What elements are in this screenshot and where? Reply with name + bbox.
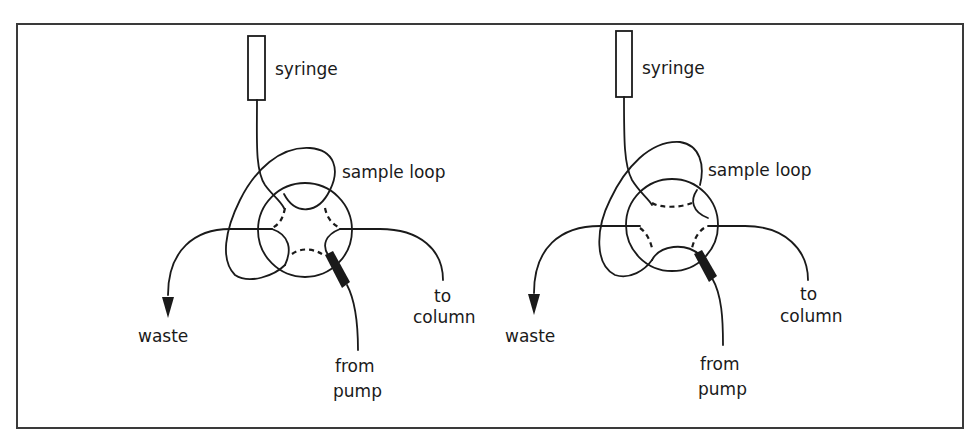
valve-channel xyxy=(325,208,340,228)
valve-channel xyxy=(272,208,285,228)
column-line xyxy=(340,229,443,280)
sample-loop-label: sample loop xyxy=(708,160,812,180)
pump-arrow-icon xyxy=(694,250,717,282)
column-line xyxy=(708,226,808,280)
from-pump-label-line2: pump xyxy=(333,381,382,401)
valve-channel xyxy=(292,250,322,255)
panel-load-position: syringe sample loop waste to column from… xyxy=(138,36,476,401)
to-column-label-line2: column xyxy=(413,307,476,327)
waste-line xyxy=(534,226,640,293)
from-pump-label-line1: from xyxy=(335,356,375,376)
waste-label: waste xyxy=(505,326,555,346)
figure-frame xyxy=(17,24,963,428)
waste-arrow-icon xyxy=(528,294,540,315)
lower-right-arc xyxy=(325,229,340,255)
waste-line xyxy=(168,229,272,295)
pump-line xyxy=(347,285,358,350)
valve-channel xyxy=(692,228,704,248)
from-pump-label-line1: from xyxy=(700,354,740,374)
pump-arrow-icon xyxy=(325,251,350,288)
syringe-icon xyxy=(248,36,265,100)
from-pump-label-line2: pump xyxy=(698,379,747,399)
to-column-label-line1: to xyxy=(800,284,817,304)
valve-channel xyxy=(640,228,652,248)
sample-loop xyxy=(226,148,335,279)
valve-channel xyxy=(652,203,692,207)
syringe-icon xyxy=(616,31,632,97)
loop-lower-arc xyxy=(272,229,289,265)
sample-loop-label: sample loop xyxy=(342,162,446,182)
syringe-label: syringe xyxy=(275,59,338,79)
to-column-label-line1: to xyxy=(434,286,451,306)
lower-arc xyxy=(652,247,700,260)
waste-label: waste xyxy=(138,326,188,346)
loop-inner-arc xyxy=(284,190,330,209)
syringe-label: syringe xyxy=(642,58,705,78)
panel-inject-position: syringe sample loop waste to column from… xyxy=(505,31,843,399)
to-column-label-line2: column xyxy=(780,306,843,326)
injection-valve-diagram: syringe sample loop waste to column from… xyxy=(0,0,978,437)
sample-loop xyxy=(599,142,701,276)
waste-arrow-icon xyxy=(162,297,174,318)
pump-line xyxy=(712,278,723,345)
